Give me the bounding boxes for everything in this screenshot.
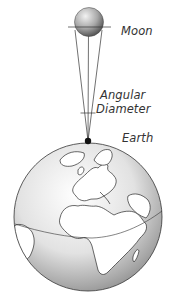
moon-icon	[68, 8, 111, 37]
angular-label: Angular	[100, 89, 145, 102]
sight-lines	[75, 27, 102, 141]
angular-diameter-diagram	[0, 0, 175, 304]
earth-label: Earth	[122, 132, 153, 145]
diameter-label: Diameter	[96, 103, 151, 116]
earth-globe-icon	[14, 143, 162, 291]
observer-point-icon	[85, 138, 91, 144]
moon-label: Moon	[121, 25, 153, 38]
